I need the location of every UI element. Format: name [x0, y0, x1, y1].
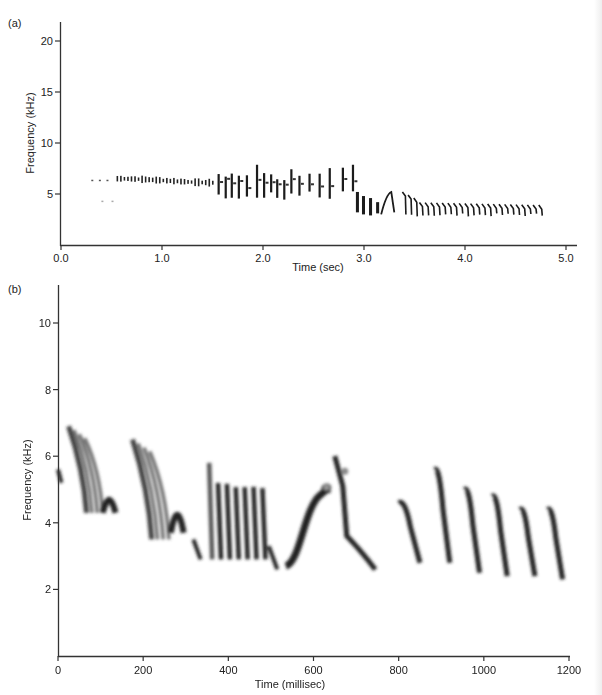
y-tick-label: 10 — [41, 137, 53, 149]
y-tick-label: 20 — [41, 35, 53, 47]
panel-b-y-axis-label: Frequency (kHz) — [21, 439, 33, 520]
x-tick-label: 800 — [389, 664, 407, 676]
y-tick-label: 2 — [45, 583, 51, 595]
y-tick-label: 10 — [39, 317, 51, 329]
x-tick-label: 0.0 — [53, 252, 68, 264]
panel-b: (b) 246810 020040060080010001200 Time (m… — [8, 283, 581, 690]
panel-b-y-ticks: 246810 — [39, 317, 59, 595]
y-tick-label: 8 — [45, 384, 51, 396]
panel-a-label: (a) — [8, 17, 21, 29]
y-tick-label: 6 — [45, 450, 51, 462]
y-tick-label: 15 — [41, 86, 53, 98]
page-gutter-shadow — [594, 0, 602, 695]
x-tick-label: 1200 — [557, 664, 581, 676]
panel-b-label: (b) — [8, 283, 21, 295]
x-tick-label: 1000 — [472, 664, 496, 676]
y-tick-label: 5 — [47, 188, 53, 200]
x-tick-label: 2.0 — [255, 252, 270, 264]
panel-a-y-axis-label: Frequency (kHz) — [24, 92, 36, 173]
panel-a-spectrogram — [91, 165, 542, 217]
x-tick-label: 0 — [55, 664, 61, 676]
x-tick-label: 200 — [134, 664, 152, 676]
panel-b-x-axis-label: Time (millisec) — [255, 678, 325, 690]
y-tick-label: 4 — [45, 517, 51, 529]
x-tick-label: 1.0 — [154, 252, 169, 264]
panel-a: (a) 5101520 0.01.02.03.04.05.0 Time (sec… — [8, 17, 577, 273]
x-tick-label: 3.0 — [356, 252, 371, 264]
panel-a-y-ticks: 5101520 — [41, 35, 61, 200]
panel-b-x-ticks: 020040060080010001200 — [55, 656, 581, 676]
spectrogram-figure: (a) 5101520 0.01.02.03.04.05.0 Time (sec… — [0, 0, 602, 695]
panel-a-x-axis-label: Time (sec) — [292, 261, 344, 273]
x-tick-label: 4.0 — [457, 252, 472, 264]
x-tick-label: 600 — [304, 664, 322, 676]
x-tick-label: 5.0 — [558, 252, 573, 264]
panel-b-spectrogram — [58, 426, 563, 579]
x-tick-label: 400 — [219, 664, 237, 676]
